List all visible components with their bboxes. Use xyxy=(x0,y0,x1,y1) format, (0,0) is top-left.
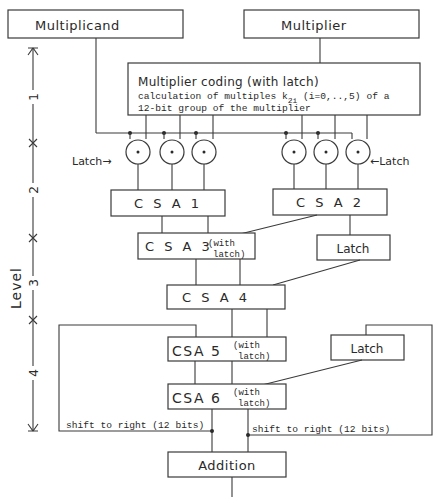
svg-text:latch): latch) xyxy=(238,399,270,409)
multiplier-box: Multiplier xyxy=(244,10,419,38)
level-1-label: 1 xyxy=(27,90,41,104)
svg-text:Multiplicand: Multiplicand xyxy=(35,18,120,33)
svg-text:Addition: Addition xyxy=(198,458,256,473)
shift-label-left: shift to right (12 bits) xyxy=(66,420,204,431)
addition-block: Addition xyxy=(168,452,286,477)
coding-desc-line2: 12-bit group of the multiplier xyxy=(138,103,311,114)
svg-text:(with: (with xyxy=(233,388,260,398)
svg-text:C S A 2: C S A 2 xyxy=(296,195,364,210)
svg-text:C S A 1: C S A 1 xyxy=(134,196,202,211)
csa-1-block: C S A 1 xyxy=(111,190,225,216)
svg-text:2: 2 xyxy=(27,186,41,194)
svg-text:4: 4 xyxy=(27,369,41,377)
coding-desc-line1: calculation of multiples k xyxy=(138,91,288,102)
level-axis: 1 2 3 4 Level xyxy=(8,48,41,431)
svg-text:Latch: Latch xyxy=(351,342,384,356)
csa-5-block: CSA 5 (with latch) xyxy=(168,337,286,362)
svg-text:CSA 6: CSA 6 xyxy=(172,390,221,406)
svg-text:3: 3 xyxy=(27,279,41,287)
coding-desc-line1-rest: (i=0,..,5) of a xyxy=(297,91,389,102)
multiplicand-box: Multiplicand xyxy=(8,10,183,38)
csa-6-block: CSA 6 (with latch) xyxy=(168,384,286,409)
latch-circles-right xyxy=(282,140,370,164)
svg-text:C S A 3: C S A 3 xyxy=(145,239,213,254)
csa-2-block: C S A 2 xyxy=(273,189,387,215)
svg-text:Multiplier coding (with latch): Multiplier coding (with latch) xyxy=(138,75,319,89)
multiplier-coding-box: Multiplier coding (with latch) calculati… xyxy=(128,63,420,115)
level-4-label: 4 xyxy=(27,366,41,380)
svg-text:1: 1 xyxy=(27,93,41,101)
level-3-label: 3 xyxy=(27,276,41,290)
svg-text:C S A 4: C S A 4 xyxy=(182,290,250,305)
latch-a-block: Latch xyxy=(317,235,390,260)
svg-text:(with: (with xyxy=(208,239,235,249)
level-2-label: 2 xyxy=(27,183,41,197)
svg-text:latch): latch) xyxy=(238,352,270,362)
latch-label-right: ←Latch xyxy=(370,155,409,168)
latch-circles-left xyxy=(126,140,216,164)
latch-label-left: Latch→ xyxy=(72,155,111,168)
latch-b-block: Latch xyxy=(331,335,404,360)
svg-text:latch): latch) xyxy=(213,250,245,260)
shift-label-right: shift to right (12 bits) xyxy=(252,424,390,435)
multiplier-block-diagram: 1 2 3 4 Level Multiplicand Multiplier Mu… xyxy=(0,0,439,504)
svg-text:(with: (with xyxy=(233,341,260,351)
svg-text:Latch: Latch xyxy=(337,242,370,256)
svg-text:Multiplier: Multiplier xyxy=(281,18,347,33)
level-axis-title: Level xyxy=(8,267,24,309)
csa-3-block: C S A 3 (with latch) xyxy=(138,233,255,260)
csa-4-block: C S A 4 xyxy=(167,285,285,309)
svg-text:CSA 5: CSA 5 xyxy=(172,343,221,359)
